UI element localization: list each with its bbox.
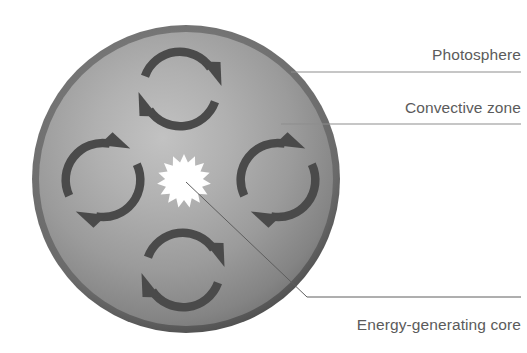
label-convective-zone: Convective zone (405, 99, 521, 116)
diagram-canvas: Photosphere Convective zone Energy-gener… (0, 0, 527, 353)
sun-structure-diagram: Photosphere Convective zone Energy-gener… (0, 0, 527, 353)
label-energy-generating-core: Energy-generating core (357, 316, 521, 333)
labels-group: Photosphere Convective zone Energy-gener… (357, 46, 521, 333)
label-photosphere: Photosphere (432, 46, 521, 63)
